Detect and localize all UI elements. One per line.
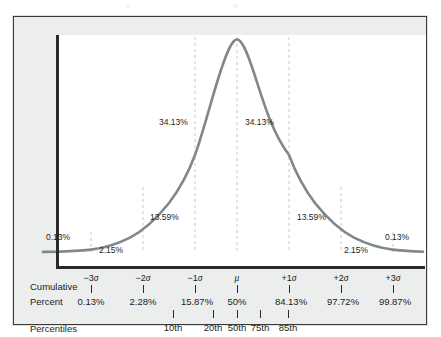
area-label-left-mid: 34.13% (159, 117, 188, 127)
percentile-tick-85th (288, 310, 289, 318)
area-label-right-1sd: 13.59% (297, 212, 326, 222)
percentile-label-75th: 75th (251, 322, 270, 333)
cumulative-value-plus2sd: 97.72% (327, 296, 359, 307)
percentile-label-85th: 85th (279, 322, 298, 333)
figure-canvas: 0.13% 2.15% 13.59% 34.13% 34.13% 13.59% … (0, 0, 441, 337)
percentile-tick-20th (213, 310, 214, 318)
percentile-label-50th: 50th (228, 322, 247, 333)
row-label-percent: Percent (30, 296, 63, 307)
cumulative-value-mu: 50% (227, 296, 246, 307)
cumulative-value-minus3sd: 0.13% (78, 296, 105, 307)
cum-tick-plus3sd (393, 285, 394, 293)
x-tick-label-plus3sd: +3σ (386, 273, 401, 283)
scan-artifact (233, 4, 238, 8)
plot-area-background (58, 35, 426, 269)
cumulative-value-plus1sd: 84.13% (275, 296, 307, 307)
area-label-left-outer: 0.13% (46, 232, 70, 242)
cumulative-value-minus1sd: 15.87% (181, 296, 213, 307)
area-label-right-mid: 34.13% (245, 117, 274, 127)
x-tick-label-plus2sd: +2σ (334, 273, 349, 283)
area-label-left-1sd: 13.59% (150, 212, 179, 222)
percentile-label-20th: 20th (204, 322, 223, 333)
percentile-tick-50th (237, 310, 238, 318)
area-label-right-outer: 0.13% (385, 232, 409, 242)
x-tick-label-minus2sd: −2σ (136, 273, 151, 283)
area-label-left-2sd: 2.15% (99, 245, 123, 255)
cumulative-value-minus2sd: 2.28% (130, 296, 157, 307)
x-tick-label-minus1sd: −1σ (188, 273, 203, 283)
cum-tick-plus2sd (341, 285, 342, 293)
cumulative-value-plus3sd: 99.87% (379, 296, 411, 307)
cum-tick-minus1sd (195, 285, 196, 293)
x-axis-line (56, 266, 425, 269)
scan-artifact (126, 3, 130, 8)
x-tick-label-minus3sd: −3σ (84, 273, 99, 283)
percentile-label-10th: 10th (164, 322, 183, 333)
cum-tick-minus3sd (91, 285, 92, 293)
x-tick-label-plus1sd: +1σ (282, 273, 297, 283)
percentile-tick-10th (173, 310, 174, 318)
cum-tick-minus2sd (143, 285, 144, 293)
percentile-tick-75th (260, 310, 261, 318)
row-label-cumulative: Cumulative (30, 281, 78, 292)
x-tick-label-mu: μ (235, 273, 240, 283)
row-label-percentiles: Percentiles (30, 323, 77, 334)
cum-tick-mu (237, 285, 238, 293)
cum-tick-plus1sd (289, 285, 290, 293)
area-label-right-2sd: 2.15% (344, 245, 368, 255)
chart-frame: 0.13% 2.15% 13.59% 34.13% 34.13% 13.59% … (13, 16, 427, 325)
